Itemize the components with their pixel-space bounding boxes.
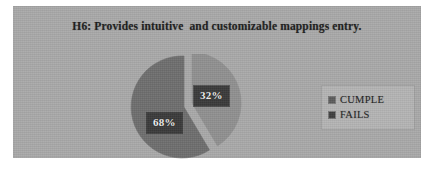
square-marker-icon <box>329 97 335 103</box>
pie-chart-graphic <box>125 54 260 159</box>
chart-title: H6: Provides intuitive and customizable … <box>13 20 421 32</box>
legend-label-fails: FAILS <box>340 109 370 120</box>
legend-item-cumple[interactable]: CUMPLE <box>329 92 408 107</box>
chart-legend: CUMPLE FAILS <box>322 86 414 129</box>
data-label-fails: 68% <box>147 113 182 133</box>
pie-svg <box>125 54 260 159</box>
chart-panel: H6: Provides intuitive and customizable … <box>13 6 421 158</box>
data-label-cumple: 32% <box>194 86 229 106</box>
legend-item-fails[interactable]: FAILS <box>329 107 408 122</box>
legend-label-cumple: CUMPLE <box>340 94 384 105</box>
pie-chart-figure: H6: Provides intuitive and customizable … <box>0 0 433 174</box>
square-marker-icon <box>329 112 335 118</box>
